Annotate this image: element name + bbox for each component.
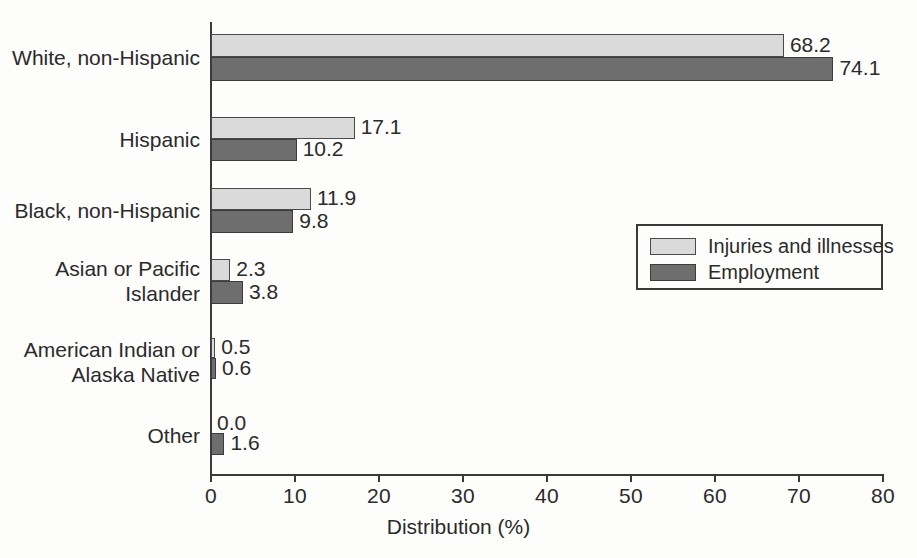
legend-label-employment: Employment bbox=[708, 261, 819, 284]
legend-swatch-icon-injuries bbox=[650, 238, 696, 255]
bar-value-label-injuries: 17.1 bbox=[361, 115, 402, 139]
x-axis-tick-label: 60 bbox=[703, 484, 727, 508]
legend-label-injuries: Injuries and illnesses bbox=[708, 235, 894, 258]
category-label: Black, non-Hispanic bbox=[14, 198, 200, 223]
legend-item-employment: Employment bbox=[650, 260, 819, 284]
y-axis-line bbox=[210, 22, 212, 475]
bar-value-label-employment: 0.6 bbox=[222, 356, 251, 380]
x-axis-tick bbox=[294, 474, 296, 482]
x-axis-tick-label: 50 bbox=[619, 484, 643, 508]
x-axis-tick bbox=[714, 474, 716, 482]
x-axis-tick bbox=[882, 474, 884, 482]
bar-chart: 01020304050607080 White, non-HispanicHis… bbox=[0, 0, 917, 558]
category-label: Asian or Pacific Islander bbox=[55, 256, 200, 306]
category-label: Hispanic bbox=[119, 127, 200, 152]
x-axis-tick-label: 70 bbox=[787, 484, 811, 508]
x-axis-tick-label: 30 bbox=[451, 484, 475, 508]
bar-value-label-employment: 3.8 bbox=[249, 280, 278, 304]
bar-value-label-employment: 74.1 bbox=[839, 56, 880, 80]
x-axis-tick bbox=[798, 474, 800, 482]
x-axis-tick-label: 20 bbox=[367, 484, 391, 508]
x-axis-title: Distribution (%) bbox=[0, 515, 917, 539]
x-axis-tick-label: 0 bbox=[205, 484, 217, 508]
x-axis-tick bbox=[630, 474, 632, 482]
x-axis-tick-label: 40 bbox=[535, 484, 559, 508]
legend-item-injuries-and-illnesses: Injuries and illnesses bbox=[650, 234, 894, 258]
bar-injuries-and-illnesses bbox=[211, 34, 784, 57]
bar-value-label-employment: 10.2 bbox=[303, 137, 344, 161]
x-axis-tick bbox=[378, 474, 380, 482]
bar-employment bbox=[211, 281, 243, 304]
bar-value-label-injuries: 11.9 bbox=[317, 186, 356, 210]
bar-value-label-employment: 1.6 bbox=[230, 431, 259, 455]
x-axis-tick-label: 10 bbox=[283, 484, 307, 508]
bar-employment bbox=[211, 433, 224, 455]
category-label: American Indian or Alaska Native bbox=[24, 337, 200, 387]
x-axis-tick bbox=[546, 474, 548, 482]
bar-employment bbox=[211, 358, 216, 379]
bar-injuries-and-illnesses bbox=[211, 338, 215, 358]
bar-employment bbox=[211, 210, 293, 233]
x-axis-tick bbox=[210, 474, 212, 482]
bar-value-label-employment: 9.8 bbox=[299, 209, 328, 233]
x-axis-tick bbox=[462, 474, 464, 482]
legend-swatch-icon-employment bbox=[650, 264, 696, 281]
scan-artifact bbox=[0, 0, 917, 10]
bar-injuries-and-illnesses bbox=[211, 188, 311, 210]
bar-injuries-and-illnesses bbox=[211, 259, 230, 281]
category-label: Other bbox=[147, 423, 200, 448]
bar-value-label-injuries: 2.3 bbox=[236, 257, 265, 281]
bar-employment bbox=[211, 57, 833, 81]
chart-legend: Injuries and illnesses Employment bbox=[636, 224, 883, 290]
bar-injuries-and-illnesses bbox=[211, 117, 355, 139]
bar-value-label-injuries: 68.2 bbox=[790, 33, 831, 57]
category-label: White, non-Hispanic bbox=[12, 45, 200, 70]
bar-employment bbox=[211, 139, 297, 161]
x-axis-tick-label: 80 bbox=[871, 484, 895, 508]
